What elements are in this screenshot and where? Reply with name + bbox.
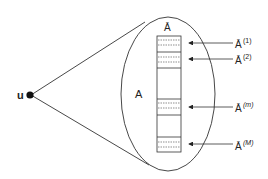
- svg-text:Ā: Ā: [235, 103, 242, 114]
- svg-text:(m): (m): [243, 101, 254, 109]
- subset-label-m: Ā (m): [235, 101, 254, 114]
- svg-text:Ā: Ā: [235, 141, 242, 152]
- column-label: Ā: [164, 22, 171, 33]
- subset-label-1: Ā (1): [235, 37, 252, 50]
- source-node-label: u: [17, 89, 24, 101]
- svg-text:Ā: Ā: [235, 39, 242, 50]
- column-rect: [157, 36, 181, 152]
- svg-text:Ā: Ā: [235, 55, 242, 66]
- cone-line-top: [31, 22, 145, 95]
- subset-label-M: Ā (M): [235, 139, 254, 152]
- cone-line-bottom: [31, 95, 149, 165]
- source-node-dot: [26, 91, 33, 98]
- subset-label-2: Ā (2): [235, 53, 252, 66]
- svg-text:(1): (1): [243, 37, 252, 45]
- svg-text:(2): (2): [243, 53, 252, 61]
- svg-text:(M): (M): [243, 139, 254, 147]
- set-label-a: A: [135, 88, 143, 100]
- diagram-canvas: u A Ā Ā (1) Ā (2): [0, 0, 268, 179]
